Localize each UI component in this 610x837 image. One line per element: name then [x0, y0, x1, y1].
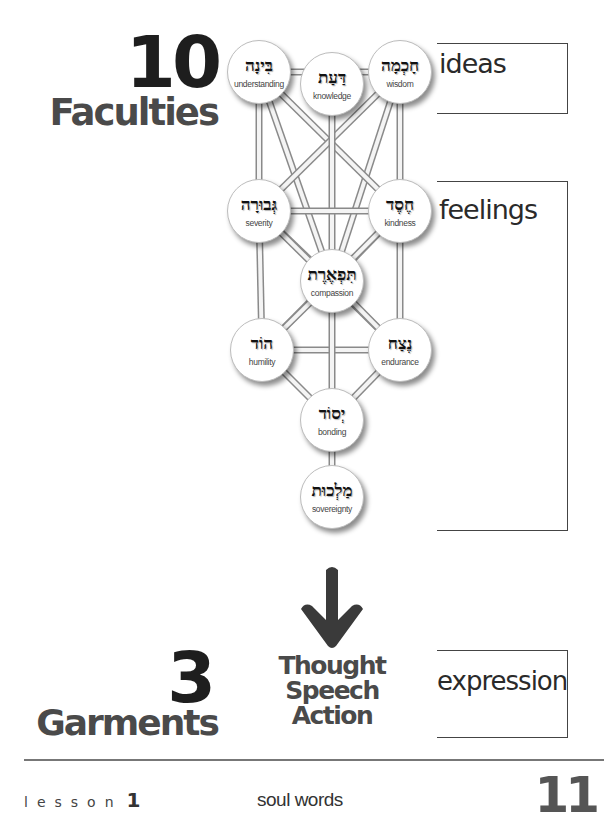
sefirah-english: compassion — [311, 288, 353, 298]
sefirah-hebrew: נֶצַח — [388, 333, 413, 353]
sefirah-chesed: חֶסֶדkindness — [368, 179, 432, 243]
sefirah-english: understanding — [234, 79, 284, 89]
sefirah-malchut: מַלְכוּתsovereignty — [300, 465, 364, 529]
sefirah-hebrew: יְסוֹד — [319, 403, 346, 423]
sefirah-tiferet: תִּפְאֶרֶתcompassion — [300, 249, 364, 313]
sefirah-hebrew: גְּבוּרָה — [241, 194, 277, 214]
footer-lesson: lesson 1 — [24, 788, 140, 812]
sefirah-binah: בִּינָהunderstanding — [227, 40, 291, 104]
sefirah-hebrew: הוֹד — [251, 333, 273, 353]
feelings-bracket — [437, 181, 568, 531]
sefirah-hebrew: תִּפְאֶרֶת — [307, 264, 356, 284]
sefirah-yesod: יְסוֹדbonding — [300, 388, 364, 452]
sefirah-english: humility — [249, 357, 275, 367]
lesson-number: 1 — [127, 788, 141, 812]
sefirah-netzach: נֶצַחendurance — [368, 318, 432, 382]
sefirah-hod: הוֹדhumility — [230, 318, 294, 382]
page-number: 11 — [534, 766, 596, 824]
down-arrow-icon — [292, 560, 372, 660]
garment-thought: Thought — [262, 653, 402, 678]
lesson-label: lesson — [24, 794, 123, 810]
sefirah-english: sovereignty — [312, 504, 352, 514]
sefirah-english: endurance — [381, 357, 418, 367]
sefirah-english: severity — [246, 218, 273, 228]
sefirah-hebrew: בִּינָה — [245, 55, 273, 75]
sefirah-hebrew: מַלְכוּת — [311, 480, 352, 500]
garment-speech: Speech — [262, 678, 402, 703]
sefirah-english: wisdom — [386, 79, 413, 89]
garment-action: Action — [262, 703, 402, 728]
sefirah-hebrew: חֶסֶד — [386, 194, 414, 214]
sefirah-hebrew: חָכְמָה — [381, 55, 419, 75]
sefirah-english: kindness — [384, 218, 415, 228]
feelings-label: feelings — [439, 194, 537, 225]
sefirah-gevurah: גְּבוּרָהseverity — [227, 179, 291, 243]
ideas-label: ideas — [439, 48, 506, 79]
sefirah-english: bonding — [318, 427, 346, 437]
sefirah-chochmah: חָכְמָהwisdom — [368, 40, 432, 104]
sefirah-hebrew: דַּעַת — [318, 67, 346, 87]
garments-list: Thought Speech Action — [262, 653, 402, 728]
expression-label: expression — [437, 666, 567, 696]
footer-title: soul words — [257, 789, 343, 811]
garments-label: Garments — [36, 703, 218, 743]
sefirah-daat: דַּעַתknowledge — [300, 52, 364, 116]
footer-divider — [24, 759, 604, 761]
sefirah-english: knowledge — [313, 91, 351, 101]
